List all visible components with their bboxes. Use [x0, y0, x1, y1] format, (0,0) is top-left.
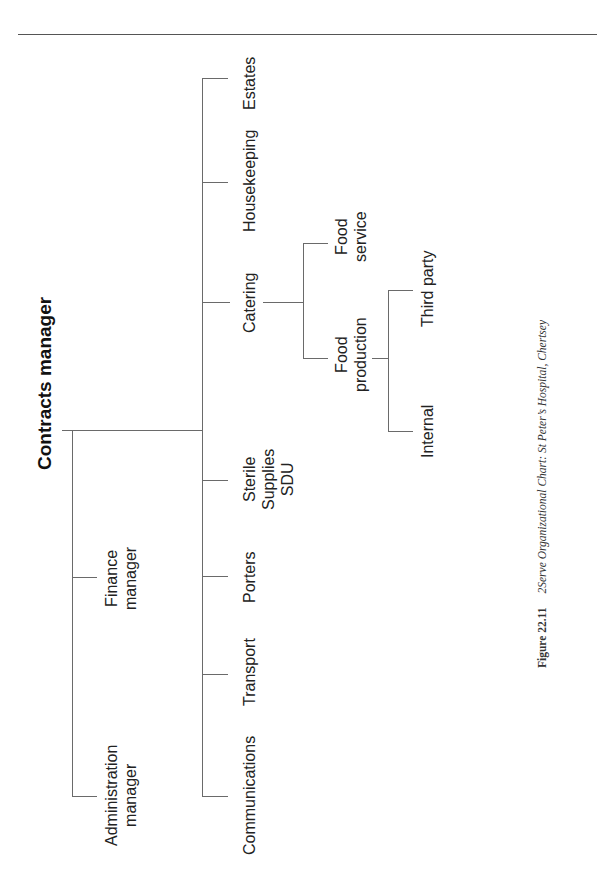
node-contracts-manager: Contracts manager	[34, 297, 56, 470]
connector-third-party	[388, 290, 413, 291]
connector-housekeeping	[202, 182, 228, 183]
connector-estates	[202, 78, 228, 79]
connector-food-production-trunk	[388, 290, 389, 432]
node-housekeeping: Housekeeping	[240, 130, 259, 232]
node-finance-manager: Finance manager	[102, 547, 140, 610]
connector-catering	[202, 302, 230, 303]
connector-catering-out	[263, 302, 304, 303]
connector-catering-trunk	[303, 243, 304, 359]
connector-porters	[202, 576, 228, 577]
node-food-service: Food service	[332, 211, 370, 262]
node-estates: Estates	[240, 57, 259, 110]
connector-administration	[72, 796, 97, 797]
connector-food-production	[303, 358, 328, 359]
node-internal: Internal	[418, 405, 437, 458]
connector-transport	[202, 674, 228, 675]
connector-internal	[388, 431, 413, 432]
header-rule	[18, 34, 597, 35]
node-communications: Communications	[240, 736, 259, 855]
node-transport: Transport	[240, 638, 259, 706]
caption-text: 2Serve Organizational Chart: St Peter’s …	[536, 320, 548, 594]
node-administration-manager: Administration manager	[102, 745, 140, 846]
connector-communications	[202, 796, 228, 797]
connector-level1-trunk	[72, 430, 73, 797]
node-sterile-supplies-sdu: Sterile Supplies SDU	[240, 449, 297, 510]
figure-label: Figure 22.11	[536, 608, 548, 668]
node-food-production: Food production	[332, 317, 370, 392]
connector-food-production-out	[372, 358, 389, 359]
node-catering: Catering	[240, 273, 259, 333]
connector-finance	[72, 577, 97, 578]
connector-sterile-supplies	[202, 480, 228, 481]
figure-caption: Figure 22.112Serve Organizational Chart:…	[536, 320, 548, 668]
node-porters: Porters	[240, 551, 259, 603]
node-third-party: Third party	[418, 251, 437, 327]
connector-root-to-departments	[62, 430, 203, 431]
connector-food-service	[303, 243, 328, 244]
connector-departments-trunk	[202, 78, 203, 797]
